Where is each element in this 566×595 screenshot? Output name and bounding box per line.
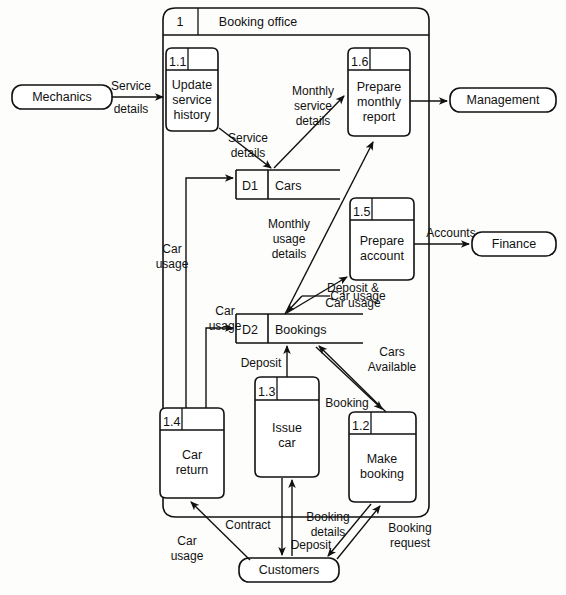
flow-label-car-usage-d1: Car usage xyxy=(156,242,189,271)
flow-label-monthly-usage-details: Monthly usage details xyxy=(268,217,310,261)
flow-label-line-2: Available xyxy=(368,360,417,374)
process-1-1-label-line-2: service xyxy=(172,93,212,107)
flow-label-deposit-customers: Deposit xyxy=(291,538,332,552)
process-1-6-number: 1.6 xyxy=(351,55,368,69)
process-1-3-number: 1.3 xyxy=(258,385,275,399)
flow-label-line-3: details xyxy=(272,247,307,261)
flow-car-usage-to-d1-line xyxy=(186,178,233,408)
flow-label-line-1: Accounts xyxy=(426,226,475,240)
flow-label-line-1: Service xyxy=(111,79,151,93)
flow-label-line-1: Booking xyxy=(325,396,368,410)
data-store-d2[interactable]: D2 Bookings xyxy=(236,314,363,343)
external-entity-customers-label: Customers xyxy=(259,563,319,577)
process-1-6-label-line-3: report xyxy=(363,110,396,124)
process-1-2-label-line-2: booking xyxy=(360,467,404,481)
data-store-d1-label: Cars xyxy=(275,179,301,193)
flow-label-line-2: usage xyxy=(209,319,242,333)
process-1-3[interactable]: 1.3 Issue car xyxy=(255,377,319,477)
dfd-svg: 1 Booking office 1.1 Update service hist… xyxy=(0,0,566,595)
process-1-5-number: 1.5 xyxy=(353,205,370,219)
flow-label-line-2: service xyxy=(294,99,332,113)
flow-label-line-1: Car xyxy=(177,534,196,548)
process-1-1-label-line-3: history xyxy=(174,108,212,122)
process-1-2[interactable]: 1.2 Make booking xyxy=(349,412,416,502)
flow-label-line-2: details xyxy=(311,525,346,539)
external-entity-finance-label: Finance xyxy=(492,237,537,251)
process-1-1[interactable]: 1.1 Update service history xyxy=(166,48,218,131)
flow-label-accounts: Accounts xyxy=(426,226,475,240)
flow-label-line-1: Deposit xyxy=(241,356,282,370)
flow-label-line-2: usage xyxy=(273,232,306,246)
flow-label-booking-details: Booking details xyxy=(306,510,349,539)
external-entity-mechanics-label: Mechanics xyxy=(32,90,92,104)
data-store-d2-code: D2 xyxy=(242,323,258,337)
data-store-d1[interactable]: D1 Cars xyxy=(236,170,340,199)
external-entity-management-label: Management xyxy=(467,93,540,107)
system-boundary-title: Booking office xyxy=(219,15,297,29)
data-store-d1-code: D1 xyxy=(242,179,258,193)
process-1-4-number: 1.4 xyxy=(163,415,180,429)
process-1-3-label-line-1: Issue xyxy=(272,421,302,435)
flow-label-line-2: usage xyxy=(156,257,189,271)
flow-label-line-1: Deposit xyxy=(291,538,332,552)
flow-label-line-2: usage xyxy=(171,549,204,563)
flow-label-contract: Contract xyxy=(225,518,271,532)
process-1-1-number: 1.1 xyxy=(169,55,186,69)
flow-label-car-usage-d2: Car usage xyxy=(209,304,242,333)
data-store-d2-label: Bookings xyxy=(275,323,326,337)
flow-label-monthly-service-details: Monthly service details xyxy=(292,84,334,128)
flow-label-line-1: Monthly xyxy=(268,217,310,231)
flow-label-line-1: Car xyxy=(215,304,234,318)
flow-label-car-usage-into-d2: Car usage xyxy=(330,289,386,303)
external-entity-customers[interactable]: Customers xyxy=(239,558,339,582)
process-1-5[interactable]: 1.5 Prepare account xyxy=(350,198,414,280)
process-1-1-label-line-1: Update xyxy=(172,78,212,92)
process-1-5-label-line-2: account xyxy=(360,249,404,263)
system-boundary-number: 1 xyxy=(177,15,184,29)
flow-label-car-usage-customers: Car usage xyxy=(171,534,204,563)
dfd-canvas: 1 Booking office 1.1 Update service hist… xyxy=(0,0,566,595)
process-1-3-label-line-2: car xyxy=(278,436,295,450)
flow-label-cars-available: Cars Available xyxy=(368,345,417,374)
flow-label-booking: Booking xyxy=(325,396,368,410)
flow-label-line-1: Booking xyxy=(306,510,349,524)
process-1-4[interactable]: 1.4 Car return xyxy=(160,408,224,498)
flow-label-line-1: Cars xyxy=(379,345,404,359)
flow-label-line-1: Booking xyxy=(388,521,431,535)
flow-label-booking-request: Booking request xyxy=(388,521,431,550)
flow-label-deposit-d2: Deposit xyxy=(241,356,282,370)
flow-label-line-2: request xyxy=(390,536,431,550)
external-entity-mechanics[interactable]: Mechanics xyxy=(12,85,112,109)
flow-label-line-1: Car usage xyxy=(330,289,386,303)
process-1-4-label-line-1: Car xyxy=(182,448,202,462)
process-1-4-label-line-2: return xyxy=(176,463,209,477)
flow-label-line-1: Service xyxy=(228,131,268,145)
process-1-6-label-line-1: Prepare xyxy=(357,80,402,94)
process-1-6[interactable]: 1.6 Prepare monthly report xyxy=(348,48,410,136)
external-entity-management[interactable]: Management xyxy=(450,88,556,112)
flow-label-line-2: details xyxy=(231,146,266,160)
flow-label-line-2: details xyxy=(114,102,149,116)
flow-car-usage-to-d2-line xyxy=(206,328,233,408)
flow-label-line-1: Contract xyxy=(225,518,271,532)
process-1-2-label-line-1: Make xyxy=(367,452,398,466)
process-1-6-label-line-2: monthly xyxy=(357,95,402,109)
process-1-2-number: 1.2 xyxy=(352,419,369,433)
external-entity-finance[interactable]: Finance xyxy=(472,232,556,256)
process-1-5-label-line-1: Prepare xyxy=(360,234,405,248)
flow-label-line-1: Monthly xyxy=(292,84,334,98)
flow-car-usage-into-d2-line xyxy=(287,296,302,312)
flow-label-line-3: details xyxy=(296,114,331,128)
flow-label-service-details-d1: Service details xyxy=(228,131,268,160)
flow-label-line-1: Car xyxy=(162,242,181,256)
